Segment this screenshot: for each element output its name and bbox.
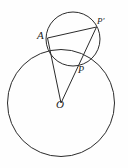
- point-label-p: P: [78, 65, 84, 75]
- point-label-p-prime: P′: [97, 17, 104, 26]
- segment-A-Pprime: [48, 27, 97, 38]
- point-label-o: O: [56, 99, 64, 110]
- geometry-canvas: [0, 0, 128, 168]
- geometry-figure: A P P′ O: [0, 0, 128, 168]
- segment-OA: [48, 38, 62, 103]
- small-circle: [46, 12, 100, 66]
- point-label-a: A: [37, 30, 44, 41]
